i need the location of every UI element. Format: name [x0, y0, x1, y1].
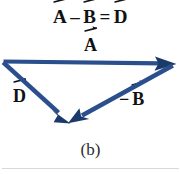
- vector-arrow-a: [4, 57, 177, 71]
- vector-figure: A – B = D A: [0, 0, 181, 174]
- vector-arrow-d: [3, 62, 70, 123]
- figure-caption: (b): [0, 140, 181, 160]
- vector-arrow-neg-b: [68, 66, 173, 124]
- bottom-hairline: [2, 168, 179, 169]
